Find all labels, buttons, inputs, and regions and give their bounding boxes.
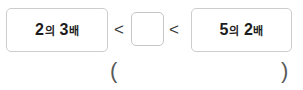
right-expression-particle: 의 — [229, 22, 240, 38]
answer-input-box[interactable] — [131, 12, 164, 46]
right-expression-multiplier: 2 — [244, 21, 253, 39]
left-expression-unit: 배 — [68, 22, 79, 38]
inequality-expression-row: 2의3배 < < 5의2배 — [0, 0, 303, 58]
right-expression-box: 5의2배 — [191, 8, 292, 52]
less-than-sign-right: < — [167, 19, 181, 41]
answer-parentheses-row[interactable]: ( ) — [0, 56, 303, 90]
right-expression-number: 5 — [220, 21, 229, 39]
left-expression-text: 2의3배 — [35, 21, 79, 39]
right-expression-text: 5의2배 — [220, 21, 264, 39]
math-problem-worksheet: 2의3배 < < 5의2배 ( ) — [0, 0, 303, 90]
open-paren: ( — [110, 56, 117, 86]
right-expression-unit: 배 — [253, 22, 264, 38]
left-expression-multiplier: 3 — [60, 21, 69, 39]
left-expression-number: 2 — [35, 21, 44, 39]
less-than-sign-left: < — [112, 19, 126, 41]
close-paren: ) — [281, 56, 288, 86]
left-expression-box: 2의3배 — [6, 8, 108, 52]
left-expression-particle: 의 — [44, 22, 55, 38]
